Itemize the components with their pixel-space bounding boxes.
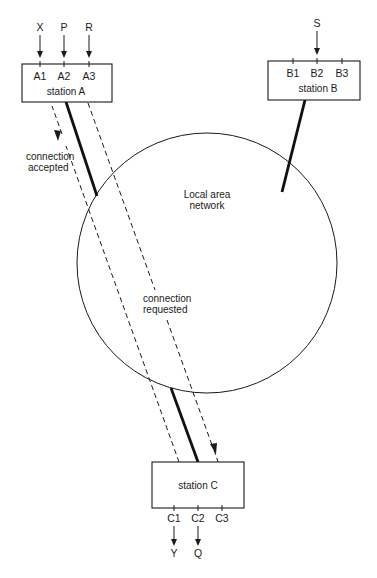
input-r-label: R — [85, 21, 93, 33]
output-q-label: Q — [194, 547, 202, 559]
input-x-arrowhead-icon — [37, 51, 43, 58]
input-s-label: S — [313, 17, 320, 29]
station-c-label: station C — [178, 480, 217, 491]
connection-accepted-arrowhead-icon — [54, 130, 61, 141]
station-a: A1 A2 A3 station A X P R — [22, 21, 112, 102]
connection-requested-label-line1: connection — [143, 293, 191, 304]
port-a1-label: A1 — [34, 70, 47, 82]
output-y-arrowhead-icon — [171, 539, 177, 546]
station-b-label: station B — [299, 83, 338, 94]
input-s-arrowhead-icon — [314, 48, 320, 55]
port-b2-label: B2 — [311, 67, 324, 79]
connection-accepted-path-upper — [52, 106, 62, 134]
connection-requested-path-upper — [88, 103, 155, 290]
port-a2-label: A2 — [58, 70, 71, 82]
station-c: station C C1 C2 C3 Y Q — [152, 462, 244, 559]
input-p-label: P — [60, 21, 67, 33]
connection-accepted-label-line2: accepted — [28, 162, 69, 173]
network-label-line2: network — [189, 200, 225, 211]
port-c2-label: C2 — [191, 512, 205, 524]
port-b1-label: B1 — [287, 67, 300, 79]
station-b: B1 B2 B3 station B S — [268, 17, 360, 100]
lan-diagram: Local area network connection accepted c… — [0, 0, 377, 578]
link-station-a-network — [66, 102, 97, 196]
port-a3-label: A3 — [83, 70, 96, 82]
output-y-label: Y — [170, 547, 177, 559]
input-x-label: X — [36, 21, 43, 33]
connection-requested-label-line2: requested — [143, 304, 187, 315]
link-station-b-network — [282, 100, 305, 192]
input-p-arrowhead-icon — [61, 51, 67, 58]
input-r-arrowhead-icon — [86, 51, 92, 58]
port-b3-label: B3 — [336, 67, 349, 79]
network-label-line1: Local area — [184, 189, 231, 200]
local-area-network-circle — [77, 133, 337, 393]
station-a-label: station A — [47, 86, 86, 97]
port-c1-label: C1 — [167, 512, 181, 524]
connection-accepted-label-line1: connection — [26, 151, 74, 162]
port-c3-label: C3 — [215, 512, 229, 524]
connection-requested-path-lower — [167, 320, 212, 445]
connection-requested-arrowhead-icon — [210, 443, 217, 454]
output-q-arrowhead-icon — [195, 539, 201, 546]
